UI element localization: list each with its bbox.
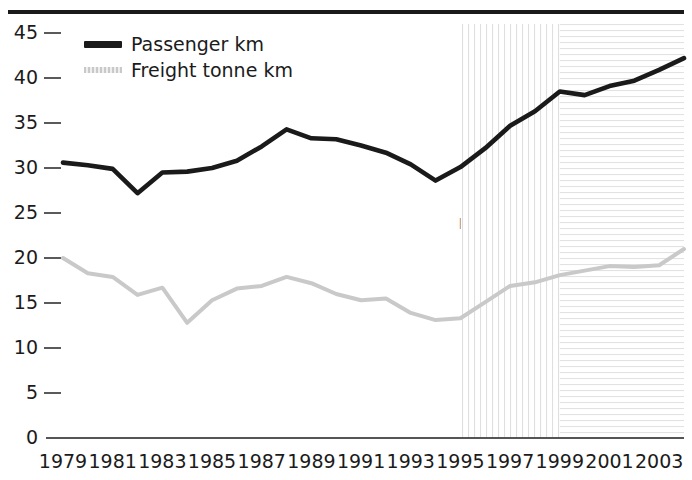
x-tick-label: 2001 — [585, 452, 633, 471]
y-tick-mark — [44, 257, 61, 259]
y-tick-label: 0 — [8, 428, 38, 447]
y-tick-label: 15 — [8, 293, 38, 312]
x-tick-label: 1989 — [287, 452, 335, 471]
chart-canvas — [0, 0, 692, 480]
chart-figure: Passenger km Freight tonne km Post- priv… — [0, 0, 692, 480]
x-tick-label: 1985 — [188, 452, 236, 471]
y-tick-mark — [44, 392, 61, 394]
y-tick-mark — [44, 77, 61, 79]
y-tick-label: 35 — [8, 113, 38, 132]
y-tick-mark — [44, 32, 61, 34]
x-tick-label: 1983 — [138, 452, 186, 471]
y-tick-label: 5 — [8, 383, 38, 402]
x-tick-label: 1993 — [387, 452, 435, 471]
x-tick-label: 1979 — [39, 452, 87, 471]
x-tick-label: 1981 — [88, 452, 136, 471]
y-tick-label: 25 — [8, 203, 38, 222]
y-tick-label: 10 — [8, 338, 38, 357]
y-tick-label: 20 — [8, 248, 38, 267]
x-tick-label: 1997 — [486, 452, 534, 471]
y-tick-mark — [44, 347, 61, 349]
x-tick-label: 1995 — [436, 452, 484, 471]
y-tick-mark — [44, 167, 61, 169]
x-tick-label: 2003 — [635, 452, 683, 471]
y-tick-mark — [44, 212, 61, 214]
y-tick-mark — [44, 302, 61, 304]
y-tick-label: 30 — [8, 158, 38, 177]
x-tick-label: 1999 — [536, 452, 584, 471]
y-tick-label: 45 — [8, 23, 38, 42]
y-tick-label: 40 — [8, 68, 38, 87]
x-tick-label: 1991 — [337, 452, 385, 471]
y-tick-mark — [44, 122, 61, 124]
x-tick-label: 1987 — [238, 452, 286, 471]
